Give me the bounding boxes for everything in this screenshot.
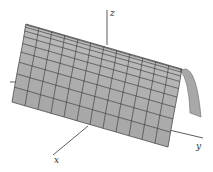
- parabolic-cylinder-surface: [12, 24, 201, 147]
- x-axis-label: x: [54, 155, 59, 165]
- z-axis-label: z: [109, 8, 115, 18]
- y-axis-label: y: [195, 141, 202, 151]
- surface-end-cap: [180, 69, 201, 117]
- surface-plot: z y x: [0, 0, 213, 172]
- x-axis: [53, 126, 88, 155]
